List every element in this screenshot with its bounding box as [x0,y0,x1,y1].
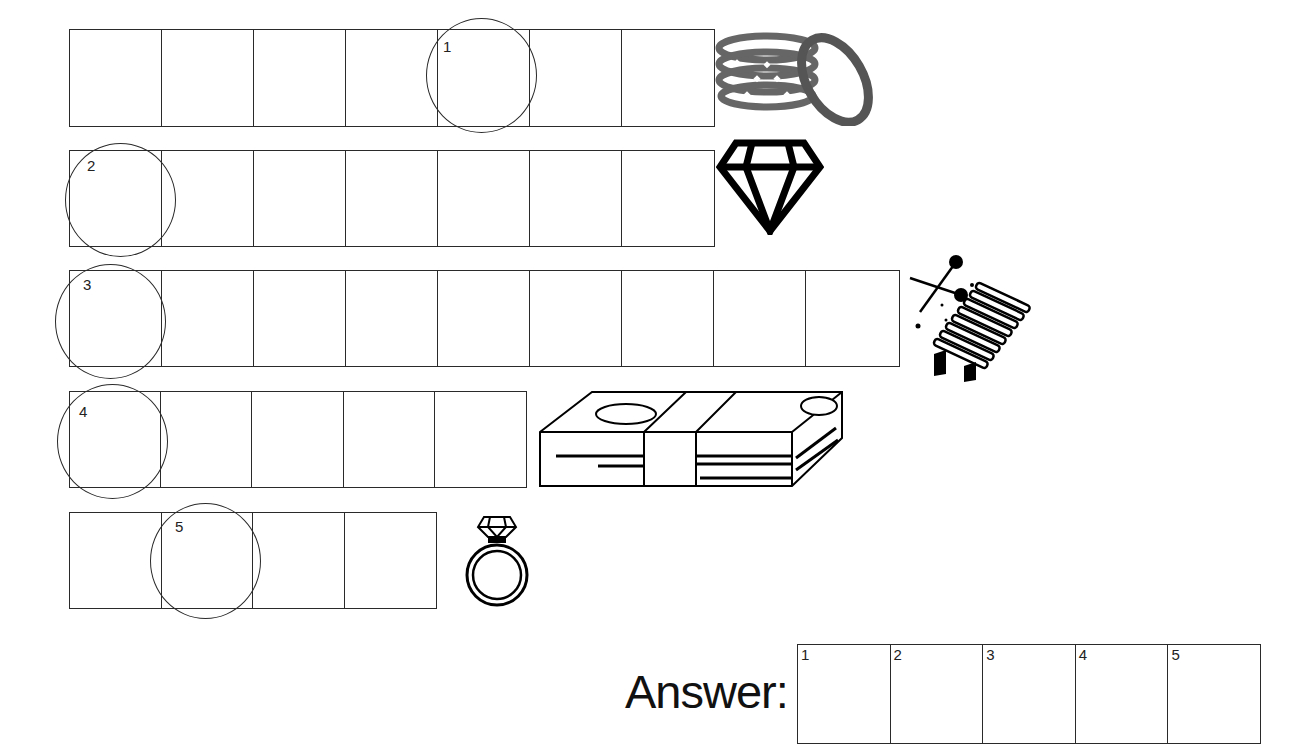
answer-box-number: 1 [801,646,809,663]
letter-cell[interactable] [253,513,345,608]
letter-cell[interactable] [70,513,162,608]
letter-cell[interactable] [438,151,530,246]
letter-cell[interactable] [70,151,162,246]
clue-number-5: 5 [175,518,183,535]
clue-number-4: 4 [79,403,87,420]
letter-cell[interactable] [162,151,254,246]
letter-cell[interactable] [622,271,714,366]
letter-cell[interactable] [346,151,438,246]
answer-box-number: 2 [894,646,902,663]
answer-box-5[interactable]: 5 [1168,645,1260,743]
letter-cell[interactable] [622,151,714,246]
letter-cell[interactable] [254,30,346,126]
clue-number-2: 2 [87,157,95,174]
letter-cell[interactable] [345,513,437,608]
word-row-5 [69,512,437,609]
answer-box-3[interactable]: 3 [983,645,1076,743]
letter-cell[interactable] [254,151,346,246]
answer-box-1[interactable]: 1 [798,645,891,743]
answer-grid: 1 2 3 4 5 [797,644,1261,744]
letter-cell[interactable] [806,271,898,366]
word-row-3 [69,270,900,367]
letter-cell[interactable] [438,271,530,366]
money-stack-icon [536,388,846,488]
word-row-2 [69,150,715,247]
letter-cell[interactable] [252,392,343,487]
letter-cell[interactable] [344,392,435,487]
letter-cell[interactable] [162,271,254,366]
letter-cell[interactable] [346,271,438,366]
answer-label: Answer: [625,664,788,719]
letter-cell[interactable] [162,30,254,126]
letter-cell[interactable] [622,30,714,126]
letter-cell[interactable] [438,30,530,126]
word-row-4 [69,391,527,488]
answer-box-2[interactable]: 2 [891,645,984,743]
clue-number-3: 3 [83,276,91,293]
clue-number-1: 1 [443,38,451,55]
bangles-icon [715,28,880,126]
word-row-1 [69,29,715,127]
letter-cell[interactable] [254,271,346,366]
answer-box-number: 3 [986,646,994,663]
letter-cell[interactable] [530,30,622,126]
letter-cell[interactable] [530,151,622,246]
letter-cell[interactable] [70,30,162,126]
answer-box-number: 5 [1171,646,1179,663]
answer-box-number: 4 [1079,646,1087,663]
letter-cell[interactable] [435,392,526,487]
letter-cell[interactable] [161,392,252,487]
letter-cell[interactable] [714,271,806,366]
letter-cell[interactable] [530,271,622,366]
letter-cell[interactable] [346,30,438,126]
answer-box-4[interactable]: 4 [1076,645,1169,743]
diamond-icon [716,139,824,235]
xylophone-icon [906,250,1038,384]
ring-icon [462,513,532,611]
